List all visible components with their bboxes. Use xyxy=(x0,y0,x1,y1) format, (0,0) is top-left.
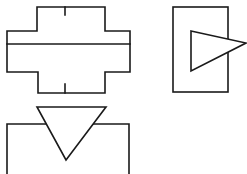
cross-shape xyxy=(7,7,130,93)
right-pointing-triangle xyxy=(191,31,246,71)
down-pointing-triangle xyxy=(37,107,106,160)
diagram-canvas xyxy=(0,0,247,174)
cross-outline xyxy=(7,7,130,93)
open-box-with-down-triangle xyxy=(7,107,129,174)
rect-with-right-triangle xyxy=(173,7,246,92)
